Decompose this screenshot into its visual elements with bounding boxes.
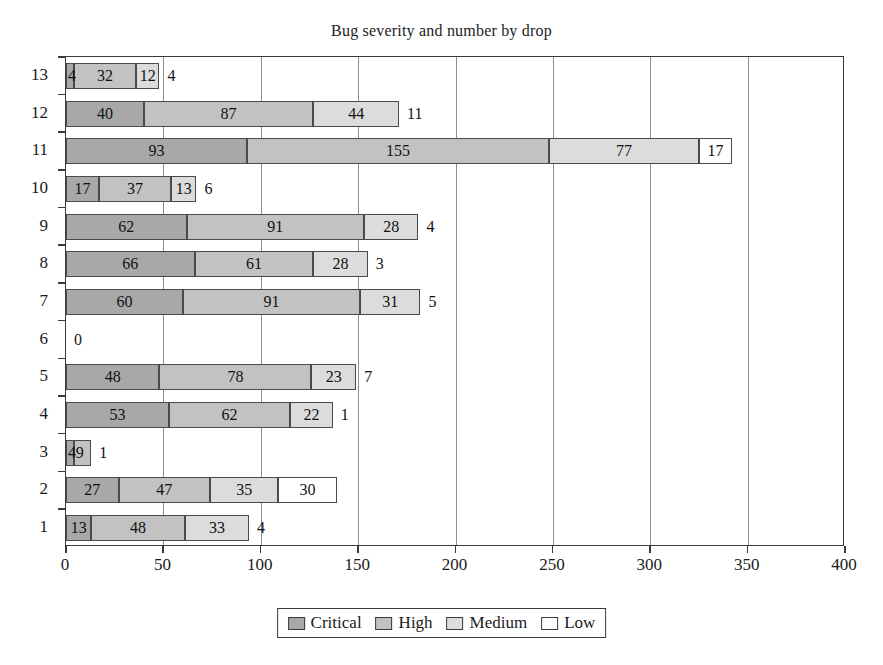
x-axis-tick [260, 546, 262, 553]
y-axis-tick [58, 358, 65, 360]
bar-row: 931557717 [66, 138, 843, 164]
bar-segment-high: 37 [99, 176, 171, 202]
y-axis-tick-label: 5 [40, 366, 49, 386]
bar-segment-critical: 40 [66, 101, 144, 127]
bar-row: 1737136 [66, 176, 843, 202]
bar-value-label-outside: 5 [428, 293, 436, 311]
bar-value-label: 48 [130, 520, 146, 536]
bar-segment-critical: 4 [66, 63, 74, 89]
bar-segment-critical: 62 [66, 214, 187, 240]
bar-segment-medium: 31 [360, 289, 420, 315]
x-axis-tick-label: 0 [61, 555, 70, 575]
bar-segment-medium: 28 [313, 251, 368, 277]
y-axis-tick-label: 4 [40, 404, 49, 424]
bar-segment-high: 47 [119, 477, 211, 503]
bar-value-label: 62 [222, 407, 238, 423]
bar-row: 6291284 [66, 214, 843, 240]
bar-row: 6661283 [66, 251, 843, 277]
bar-row: 6091315 [66, 289, 843, 315]
x-axis-tick [357, 546, 359, 553]
bar-value-label-outside: 11 [407, 105, 422, 123]
bar-value-label: 60 [116, 294, 132, 310]
bar-value-label: 22 [303, 407, 319, 423]
bar-segment-critical: 4 [66, 440, 74, 466]
bar-value-label: 37 [127, 181, 143, 197]
bar-value-label: 44 [348, 106, 364, 122]
bar-value-label: 93 [149, 143, 165, 159]
legend-item-medium[interactable]: Medium [447, 613, 528, 633]
bar-value-label-outside: 1 [99, 444, 107, 462]
y-axis-tick [58, 508, 65, 510]
x-axis-tick-label: 50 [154, 555, 171, 575]
y-axis-tick-label: 3 [40, 442, 49, 462]
bar-segment-medium: 44 [313, 101, 399, 127]
bar-segment-low: 30 [278, 477, 336, 503]
bar-value-label: 155 [386, 143, 410, 159]
bar-value-label-outside: 4 [167, 67, 175, 85]
bar-row: 491 [66, 440, 843, 466]
bar-value-label-outside: 3 [376, 255, 384, 273]
legend-label: Low [564, 613, 595, 633]
y-axis-tick [58, 395, 65, 397]
x-axis: 050100150200250300350400 [65, 546, 844, 576]
bar-value-label: 0 [74, 331, 82, 349]
bar-segment-medium: 35 [210, 477, 278, 503]
y-axis-tick-label: 13 [31, 65, 48, 85]
x-axis-tick-label: 400 [831, 555, 857, 575]
bar-segment-critical: 17 [66, 176, 99, 202]
bar-value-label: 9 [76, 445, 84, 461]
bar-value-label: 53 [110, 407, 126, 423]
x-axis-tick-label: 100 [247, 555, 273, 575]
bar-value-label-outside: 4 [257, 519, 265, 537]
y-axis-tick [58, 433, 65, 435]
bug-severity-chart: Bug severity and number by drop 43212440… [0, 0, 883, 665]
x-axis-tick-label: 200 [442, 555, 468, 575]
bar-value-label-outside: 6 [204, 180, 212, 198]
bar-segment-critical: 48 [66, 364, 159, 390]
legend-label: Medium [470, 613, 528, 633]
bar-segment-critical: 93 [66, 138, 247, 164]
bar-value-label: 31 [382, 294, 398, 310]
y-axis-tick-label: 10 [31, 178, 48, 198]
y-axis-tick-label: 7 [40, 291, 49, 311]
bar-segment-medium: 33 [185, 515, 249, 541]
bar-segment-high: 91 [183, 289, 360, 315]
bar-value-label: 23 [326, 369, 342, 385]
legend-swatch-icon [376, 617, 393, 630]
bar-row: 432124 [66, 63, 843, 89]
chart-legend: CriticalHighMediumLow [277, 608, 607, 638]
bar-segment-high: 62 [169, 402, 290, 428]
x-axis-tick [747, 546, 749, 553]
legend-item-low[interactable]: Low [541, 613, 595, 633]
legend-item-critical[interactable]: Critical [288, 613, 362, 633]
bar-segment-medium: 77 [549, 138, 699, 164]
bar-segment-high: 61 [195, 251, 314, 277]
x-axis-tick [552, 546, 554, 553]
y-axis-tick-label: 12 [31, 103, 48, 123]
bar-value-label: 17 [75, 181, 91, 197]
x-axis-tick [844, 546, 846, 553]
bar-segment-critical: 13 [66, 515, 91, 541]
legend-label: High [399, 613, 433, 633]
bar-segment-high: 9 [74, 440, 92, 466]
y-axis-tick-label: 1 [40, 517, 49, 537]
bar-value-label: 48 [105, 369, 121, 385]
x-axis-tick-label: 250 [539, 555, 565, 575]
bar-segment-high: 155 [247, 138, 549, 164]
legend-item-high[interactable]: High [376, 613, 433, 633]
bar-value-label: 12 [140, 68, 156, 84]
bar-value-label: 28 [383, 219, 399, 235]
bar-value-label: 91 [267, 219, 283, 235]
bar-segment-medium: 23 [311, 364, 356, 390]
y-axis-tick-label: 2 [40, 479, 49, 499]
bar-value-label: 40 [97, 106, 113, 122]
bar-row: 0 [66, 327, 843, 353]
bar-segment-critical: 27 [66, 477, 119, 503]
bar-value-label: 27 [84, 482, 100, 498]
x-axis-tick-label: 300 [637, 555, 663, 575]
x-axis-tick-label: 150 [344, 555, 370, 575]
y-axis-tick [58, 56, 65, 58]
y-axis-tick-label: 8 [40, 253, 49, 273]
bar-segment-high: 87 [144, 101, 313, 127]
y-axis-tick [58, 131, 65, 133]
